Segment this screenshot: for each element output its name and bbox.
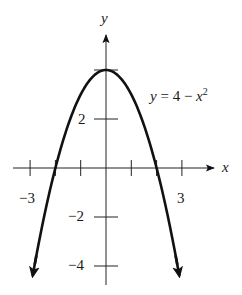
equation-exponent: 2 bbox=[203, 86, 208, 97]
tick-label-neg2: −2 bbox=[68, 208, 84, 224]
tick-label-neg3: −3 bbox=[19, 190, 35, 206]
equation-body: = 4 − bbox=[157, 88, 196, 104]
x-axis-label: x bbox=[221, 159, 229, 175]
equation-y: y bbox=[148, 88, 157, 104]
tick-label-neg4: −4 bbox=[68, 257, 84, 273]
tick-label-2: 2 bbox=[78, 111, 86, 127]
y-axis-label: y bbox=[99, 10, 108, 26]
tick-label-3: 3 bbox=[177, 190, 185, 206]
parabola-plot: y x −3 3 2 −2 −4 y = 4 − x2 bbox=[0, 0, 242, 295]
equation-label: y = 4 − x2 bbox=[148, 86, 208, 104]
